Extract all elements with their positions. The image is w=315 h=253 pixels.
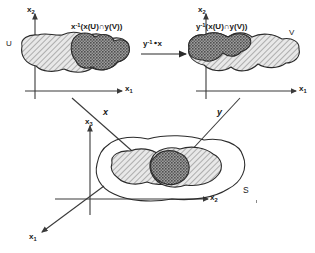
manifold-axis-label-vertical: x3 [85,118,93,127]
right-region-expression: y-1(x(U)∩y(V)) [196,23,247,31]
figure-canvas: x2 x1 U x-1(x(U)∩y(V)) x2 x1 V y-1(x(U)∩… [0,0,315,253]
open-set-label-V: V [289,29,294,37]
right-axis-label-vertical: x2 [198,6,206,15]
left-axis-label-horizontal: x1 [125,85,133,94]
manifold-intersection-region [151,151,190,185]
right-axis-label-horizontal: x1 [299,85,307,94]
manifold-region-group [111,147,221,187]
left-region-expression: x-1(x(U)∩y(V)) [71,23,122,31]
left-axis-label-vertical: x2 [27,6,35,15]
transition-map-label: y-1∘x [143,40,162,48]
chart-map-arrows [72,98,240,158]
left-region-group [22,32,130,72]
open-set-label-U: U [6,40,12,48]
scan-artifact-speck [256,200,257,203]
diagram-vector-layer [0,0,315,253]
manifold-label-S: S [243,186,249,195]
chart-map-label-y: y [217,108,222,117]
manifold-axis-label-horizontal: x2 [210,194,218,203]
right-region-group [189,33,300,71]
manifold-axis-label-depth: x1 [29,233,37,242]
chart-map-label-x: x [103,108,108,117]
